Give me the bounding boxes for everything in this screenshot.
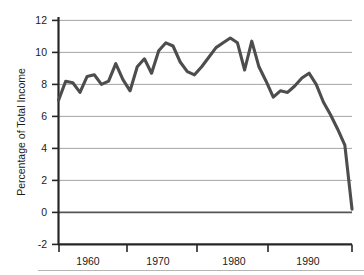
- y-tick-labels: 12 10 8 6 4 2 0 -2: [35, 14, 47, 250]
- x-tick-label-1960: 1960: [76, 255, 100, 267]
- x-tick-label-1990: 1990: [296, 255, 320, 267]
- x-tick-labels: 1960 1970 1980 1990: [76, 255, 320, 267]
- y-tick-marks: [52, 20, 58, 244]
- y-tick-label-minus2: -2: [38, 238, 47, 250]
- x-tick-label-1980: 1980: [222, 255, 246, 267]
- y-tick-label-10: 10: [35, 46, 47, 58]
- data-series-line: [59, 38, 353, 209]
- gridlines: [58, 20, 352, 212]
- y-tick-label-6: 6: [41, 110, 47, 122]
- y-tick-label-8: 8: [41, 78, 47, 90]
- x-tick-label-1970: 1970: [146, 255, 170, 267]
- y-tick-label-2: 2: [41, 174, 47, 186]
- y-tick-label-4: 4: [41, 142, 47, 154]
- chart-figure: 12 10 8 6 4 2 0 -2 Percentage of Total I…: [0, 0, 364, 275]
- line-chart: 12 10 8 6 4 2 0 -2 Percentage of Total I…: [0, 0, 364, 275]
- y-tick-label-12: 12: [35, 14, 47, 26]
- x-tick-marks: [59, 244, 352, 252]
- y-tick-label-0: 0: [41, 206, 47, 218]
- y-axis-title: Percentage of Total Income: [15, 68, 27, 196]
